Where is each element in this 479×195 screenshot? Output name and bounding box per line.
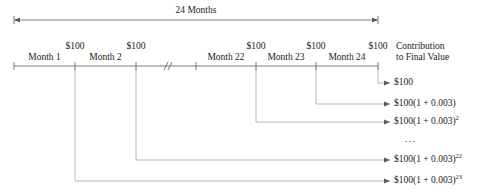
deposit-amount-label: $100 xyxy=(307,42,326,52)
timeline-axis xyxy=(14,62,378,70)
contribution-formula: $100 xyxy=(394,78,413,88)
formula-exponent: 22 xyxy=(456,152,463,159)
column-header-line1: Contribution xyxy=(396,42,445,52)
deposit-amount-label: $100 xyxy=(247,42,266,52)
month-label: Month 22 xyxy=(207,53,244,63)
contribution-formula: $100(1 + 0.003)23 xyxy=(394,176,462,186)
formula-base: $100(1 + 0.003) xyxy=(394,98,456,108)
span-label: 24 Months xyxy=(176,6,217,16)
formula-base: $100(1 + 0.003) xyxy=(394,175,456,185)
month-label: Month 24 xyxy=(328,53,365,63)
deposit-amount-label: $100 xyxy=(127,42,146,52)
month-label: Month 1 xyxy=(28,53,60,63)
contribution-formula: $100(1 + 0.003)2 xyxy=(394,117,459,127)
contribution-formula: $100(1 + 0.003) xyxy=(394,99,456,109)
timeline-diagram: 24 Months $100$100$100$100$100 Month 1Mo… xyxy=(0,0,479,195)
span-arrow xyxy=(14,16,378,24)
month-label: Month 23 xyxy=(267,53,304,63)
month-label: Month 2 xyxy=(89,53,121,63)
formula-base: $100(1 + 0.003) xyxy=(394,116,456,126)
formula-base: $100(1 + 0.003) xyxy=(394,154,456,164)
deposit-amount-label: $100 xyxy=(369,42,388,52)
deposit-amount-label: $100 xyxy=(66,42,85,52)
contribution-formula: $100(1 + 0.003)22 xyxy=(394,155,462,165)
column-header-line2: to Final Value xyxy=(396,53,449,63)
formula-base: $100 xyxy=(394,77,413,87)
formula-exponent: 2 xyxy=(456,114,459,121)
ellipsis: ... xyxy=(405,135,417,145)
formula-exponent: 23 xyxy=(456,173,463,180)
contribution-connectors xyxy=(75,66,390,181)
